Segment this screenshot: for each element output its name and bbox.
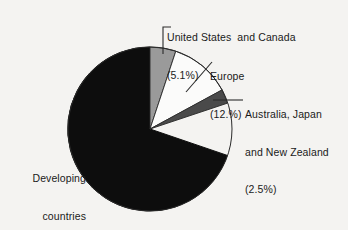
- pie-label-united-states-canada-name: United States and Canada: [167, 31, 296, 44]
- pie-label-australia-name-line2: and New Zealand: [245, 146, 329, 159]
- pie-label-developing-name-line1: Developing: [6, 172, 86, 185]
- pie-label-developing-name-line2: countries: [6, 210, 86, 223]
- pie-label-europe: Europe (12.%): [210, 45, 244, 145]
- pie-label-developing-countries: Developing countries (80.4%): [6, 147, 86, 230]
- pie-chart-figure: United States and Canada (5.1%) Europe (…: [0, 0, 348, 230]
- pie-label-europe-name: Europe: [210, 70, 244, 83]
- pie-label-australia-value: (2.5%): [245, 183, 329, 196]
- pie-label-australia-japan-new-zealand: Australia, Japan and New Zealand (2.5%): [245, 83, 329, 221]
- pie-label-australia-name-line1: Australia, Japan: [245, 108, 329, 121]
- pie-label-europe-value: (12.%): [210, 108, 244, 121]
